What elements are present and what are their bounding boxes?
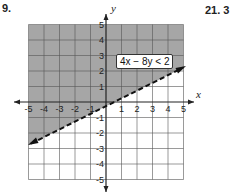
svg-text:-3: -3 — [55, 104, 63, 114]
svg-text:1: 1 — [119, 104, 124, 114]
y-arrow-down-icon — [104, 186, 109, 192]
svg-text:2: 2 — [134, 104, 139, 114]
svg-text:2: 2 — [99, 66, 104, 76]
y-axis-label: y — [110, 2, 116, 14]
svg-text:-4: -4 — [96, 159, 104, 169]
inequality-label: 4x − 8y < 2 — [116, 54, 173, 69]
svg-text:-1: -1 — [86, 104, 94, 114]
svg-text:3: 3 — [150, 104, 155, 114]
svg-text:1: 1 — [99, 82, 104, 92]
x-arrow-right-icon — [188, 100, 194, 105]
svg-text:3: 3 — [99, 51, 104, 61]
svg-text:-3: -3 — [96, 144, 104, 154]
coordinate-graph: x y -5 -4 -3 -2 -1 1 2 3 4 5 5 4 3 2 1 -… — [0, 0, 239, 196]
x-arrow-left-icon — [14, 100, 20, 105]
x-axis-label: x — [195, 88, 201, 100]
svg-text:4: 4 — [165, 104, 170, 114]
svg-text:4: 4 — [99, 35, 104, 45]
y-arrow-up-icon — [104, 14, 109, 20]
svg-text:-2: -2 — [96, 128, 104, 138]
svg-text:-2: -2 — [71, 104, 79, 114]
svg-text:-5: -5 — [24, 104, 32, 114]
svg-text:-4: -4 — [40, 104, 48, 114]
svg-text:-5: -5 — [96, 175, 104, 185]
svg-text:5: 5 — [99, 20, 104, 30]
svg-text:-1: -1 — [96, 113, 104, 123]
svg-text:5: 5 — [181, 104, 186, 114]
